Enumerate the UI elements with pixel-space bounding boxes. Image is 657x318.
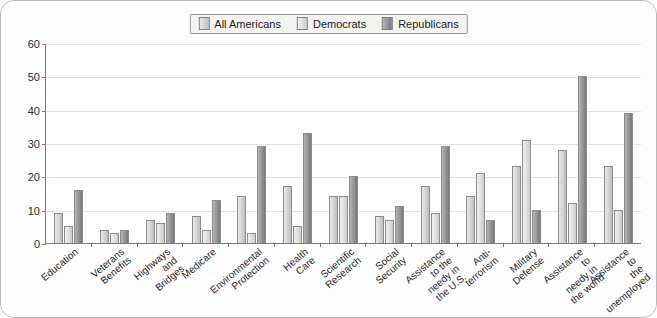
y-axis-tick-mark bbox=[42, 111, 46, 112]
bar-chart-container: All Americans Democrats Republicans 0102… bbox=[0, 0, 657, 318]
bar-republicans bbox=[624, 113, 633, 243]
bar-republicans bbox=[395, 206, 404, 243]
x-axis-tick-label: Scientific Research bbox=[316, 246, 363, 290]
bar-democrats bbox=[110, 233, 119, 243]
plot-area: 0102030405060 bbox=[45, 44, 641, 244]
y-axis-tick-mark bbox=[42, 77, 46, 78]
legend-label-republicans: Republicans bbox=[398, 18, 459, 30]
bar-group bbox=[321, 44, 367, 243]
bar-group bbox=[275, 44, 321, 243]
bar-democrats bbox=[476, 173, 485, 243]
bar-all-americans bbox=[100, 230, 109, 243]
x-axis-tick-label: Health Care bbox=[280, 246, 316, 281]
bar-republicans bbox=[578, 76, 587, 243]
bar-group bbox=[229, 44, 275, 243]
y-axis-tick-mark bbox=[42, 211, 46, 212]
legend-item-all-americans: All Americans bbox=[198, 17, 281, 30]
x-axis-tick-label: Social Security bbox=[367, 246, 409, 286]
bar-democrats bbox=[64, 226, 73, 243]
bar-all-americans bbox=[283, 186, 292, 243]
y-axis-tick-label: 60 bbox=[28, 39, 40, 50]
legend-item-democrats: Democrats bbox=[297, 17, 366, 30]
x-axis-tick-label: Education bbox=[39, 246, 80, 283]
bar-all-americans bbox=[558, 150, 567, 243]
bar-democrats bbox=[339, 196, 348, 243]
bar-republicans bbox=[257, 146, 266, 243]
y-axis-tick-label: 0 bbox=[34, 239, 40, 250]
bar-all-americans bbox=[512, 166, 521, 243]
bar-republicans bbox=[441, 146, 450, 243]
bar-republicans bbox=[74, 190, 83, 243]
legend-swatch-icon-democrats bbox=[297, 17, 308, 30]
bar-all-americans bbox=[237, 196, 246, 243]
x-axis-tick-label: Assistance to the unemployed bbox=[582, 246, 652, 315]
legend-swatch-icon-all-americans bbox=[198, 17, 209, 30]
bar-group bbox=[366, 44, 412, 243]
y-axis-tick-mark bbox=[42, 44, 46, 45]
y-axis-tick-mark bbox=[42, 144, 46, 145]
bar-democrats bbox=[156, 223, 165, 243]
x-axis-tick-label: Medicare bbox=[179, 246, 218, 281]
y-axis-tick-label: 50 bbox=[28, 72, 40, 83]
chart-legend: All Americans Democrats Republicans bbox=[189, 14, 467, 34]
bar-republicans bbox=[303, 133, 312, 243]
bar-group bbox=[595, 44, 641, 243]
bar-democrats bbox=[568, 203, 577, 243]
legend-item-republicans: Republicans bbox=[382, 17, 459, 30]
bar-republicans bbox=[486, 220, 495, 243]
bar-group bbox=[549, 44, 595, 243]
bar-democrats bbox=[614, 210, 623, 243]
bar-all-americans bbox=[466, 196, 475, 243]
bar-democrats bbox=[293, 226, 302, 243]
x-axis-tick-label: Veterans Benefits bbox=[89, 246, 133, 288]
x-axis-tick-label: Military Defense bbox=[503, 246, 546, 287]
bar-all-americans bbox=[421, 186, 430, 243]
bar-group bbox=[92, 44, 138, 243]
bar-group bbox=[458, 44, 504, 243]
legend-swatch-icon-republicans bbox=[382, 17, 393, 30]
bar-group bbox=[412, 44, 458, 243]
bar-democrats bbox=[385, 220, 394, 243]
y-axis-tick-mark bbox=[42, 244, 46, 245]
x-axis-tick-label: Assistance to the needy in the U.S. bbox=[403, 246, 468, 311]
bar-group bbox=[504, 44, 550, 243]
bar-democrats bbox=[522, 140, 531, 243]
bar-republicans bbox=[120, 230, 129, 243]
bar-group bbox=[138, 44, 184, 243]
y-axis-tick-label: 40 bbox=[28, 105, 40, 116]
bar-republicans bbox=[212, 200, 221, 243]
bar-republicans bbox=[532, 210, 541, 243]
x-axis-tick-label: Highways and Bridges bbox=[132, 246, 186, 299]
bar-all-americans bbox=[329, 196, 338, 243]
bar-republicans bbox=[166, 213, 175, 243]
bar-democrats bbox=[202, 230, 211, 243]
bar-group bbox=[46, 44, 92, 243]
bar-democrats bbox=[431, 213, 440, 243]
legend-label-all-americans: All Americans bbox=[214, 18, 281, 30]
bar-all-americans bbox=[146, 220, 155, 243]
bar-republicans bbox=[349, 176, 358, 243]
y-axis-tick-label: 10 bbox=[28, 205, 40, 216]
y-axis-tick-label: 30 bbox=[28, 139, 40, 150]
bar-all-americans bbox=[604, 166, 613, 243]
bar-all-americans bbox=[192, 216, 201, 243]
bar-all-americans bbox=[54, 213, 63, 243]
bar-groups bbox=[46, 44, 641, 243]
bar-democrats bbox=[247, 233, 256, 243]
bar-group bbox=[183, 44, 229, 243]
legend-label-democrats: Democrats bbox=[313, 18, 366, 30]
x-axis-labels: EducationVeterans BenefitsHighways and B… bbox=[45, 246, 641, 316]
bar-all-americans bbox=[375, 216, 384, 243]
y-axis-tick-label: 20 bbox=[28, 172, 40, 183]
y-axis-tick-mark bbox=[42, 177, 46, 178]
